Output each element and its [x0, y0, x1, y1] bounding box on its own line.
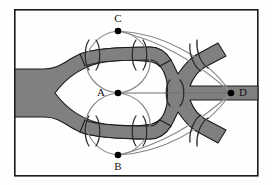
node-label-D: D: [239, 86, 247, 98]
node-label-B: B: [114, 160, 121, 172]
node-C[interactable]: [115, 28, 122, 35]
node-label-A: A: [97, 86, 105, 98]
node-A[interactable]: [115, 90, 122, 97]
node-D[interactable]: [228, 90, 235, 97]
figure-canvas: C A B D: [0, 0, 272, 185]
topological-diagram: C A B D: [0, 0, 272, 185]
node-B[interactable]: [115, 152, 122, 159]
node-label-C: C: [114, 12, 121, 24]
